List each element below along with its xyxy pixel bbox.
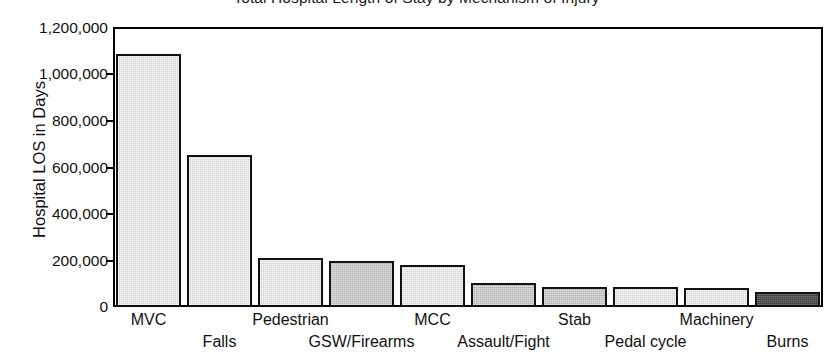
y-tick-label: 800,000 (8, 112, 108, 130)
bar-mcc (400, 265, 465, 307)
y-tick-label: 1,200,000 (8, 19, 108, 37)
bar-burns (755, 292, 820, 307)
x-axis-label: Falls (157, 333, 282, 351)
chart-title-clip: Total Hospital Length of Stay by Mechani… (0, 0, 833, 9)
x-axis-label: Pedestrian (228, 311, 353, 329)
x-axis-label: Pedal cycle (583, 333, 708, 351)
y-axis-tick-labels: 1,200,000 1,000,000 800,000 600,000 400,… (0, 0, 108, 359)
chart-title: Total Hospital Length of Stay by Mechani… (0, 0, 833, 7)
x-axis-labels: MVCFallsPedestrianGSW/FirearmsMCCAssault… (113, 307, 833, 359)
bar-assault-fight (471, 283, 536, 307)
bars-layer (113, 27, 823, 307)
x-axis-label: Assault/Fight (441, 333, 566, 351)
x-axis-label: Stab (512, 311, 637, 329)
x-axis-label: GSW/Firearms (299, 333, 424, 351)
bar-chart: Total Hospital Length of Stay by Mechani… (0, 0, 833, 359)
bar-gsw-firearms (329, 261, 394, 307)
x-axis-label: Burns (725, 333, 833, 351)
y-tick-label: 200,000 (8, 252, 108, 270)
x-axis-label: MVC (86, 311, 211, 329)
bar-stab (542, 287, 607, 307)
bar-pedal-cycle (613, 287, 678, 307)
bar-falls (187, 155, 252, 307)
bar-pedestrian (258, 258, 323, 307)
x-axis-label: Machinery (654, 311, 779, 329)
y-tick-label: 400,000 (8, 205, 108, 223)
bar-machinery (684, 288, 749, 307)
y-tick-label: 1,000,000 (8, 65, 108, 83)
x-axis-label: MCC (370, 311, 495, 329)
y-tick-label: 600,000 (8, 159, 108, 177)
bar-mvc (116, 54, 181, 307)
